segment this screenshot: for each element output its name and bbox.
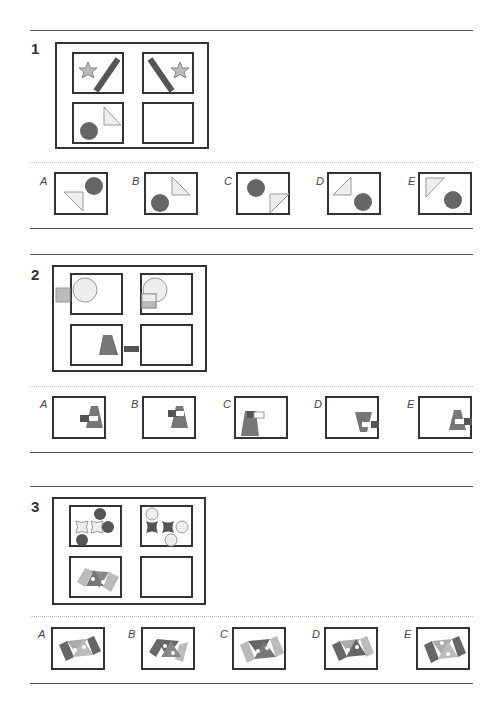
- option-a-figure: [54, 398, 108, 441]
- triangles-parallelograms-figure: [71, 558, 124, 600]
- q3-option-c-label: C: [220, 628, 228, 640]
- option-c-figure: [234, 629, 288, 672]
- option-c-figure: [236, 398, 290, 441]
- option-b-figure: [143, 629, 197, 672]
- q2-option-c-label: C: [223, 398, 231, 410]
- q3-option-e[interactable]: [416, 627, 470, 670]
- q2-option-e[interactable]: [418, 396, 472, 439]
- section-1-divider: [30, 162, 473, 163]
- square-inside-circle-figure: [142, 275, 195, 317]
- q1-option-d-label: D: [316, 175, 324, 187]
- q3-option-b-label: B: [128, 628, 135, 640]
- option-d-figure: [326, 629, 380, 672]
- q1-option-e-label: E: [408, 175, 415, 187]
- q2-cell-2: [140, 273, 193, 315]
- q2-cell-1: [70, 273, 123, 315]
- q3-option-d-label: D: [312, 628, 320, 640]
- q3-cell-4-blank: [140, 556, 193, 598]
- q1-option-b[interactable]: [144, 172, 198, 215]
- q2-option-b-label: B: [131, 398, 138, 410]
- option-e-figure: [420, 174, 474, 217]
- option-b-figure: [146, 174, 200, 217]
- option-d-figure: [327, 398, 381, 441]
- q3-cell-2: [140, 505, 193, 547]
- option-e-figure: [420, 398, 474, 441]
- option-b-figure: [144, 398, 198, 441]
- q1-option-e[interactable]: [418, 172, 472, 215]
- q2-option-d[interactable]: [325, 396, 379, 439]
- q1-cell-3: [72, 102, 124, 144]
- q1-option-a-label: A: [40, 175, 47, 187]
- q3-cell-3: [69, 556, 122, 598]
- crosses-circles-figure: [71, 507, 124, 549]
- option-a-figure: [53, 629, 107, 672]
- option-c-figure: [238, 174, 292, 217]
- dark-crosses-light-circles-figure: [142, 507, 195, 549]
- section-1-top-rule: [30, 30, 473, 31]
- star-slash-figure: [74, 54, 126, 96]
- option-e-figure: [418, 629, 472, 672]
- question-number-3: 3: [31, 498, 39, 515]
- q2-option-c[interactable]: [234, 396, 288, 439]
- q2-option-b[interactable]: [142, 396, 196, 439]
- question-number-2: 2: [31, 266, 39, 283]
- q2-option-e-label: E: [407, 398, 414, 410]
- q3-option-c[interactable]: [232, 627, 286, 670]
- q3-option-b[interactable]: [141, 627, 195, 670]
- section-1-bottom-rule: [30, 228, 473, 229]
- circle-triangle-figure: [74, 104, 126, 146]
- q1-option-c[interactable]: [236, 172, 290, 215]
- q1-cell-2: [142, 52, 194, 94]
- question-2-matrix: [52, 265, 207, 372]
- trapezoid-bar-figure: [72, 326, 125, 368]
- section-2-top-rule: [30, 254, 473, 255]
- question-number-1: 1: [31, 40, 39, 57]
- q3-option-a-label: A: [38, 628, 45, 640]
- q1-cell-4-blank: [142, 102, 194, 144]
- q2-cell-4-blank: [140, 324, 193, 366]
- q2-option-d-label: D: [314, 398, 322, 410]
- option-d-figure: [329, 174, 383, 217]
- question-1-matrix: [55, 42, 209, 149]
- q1-option-c-label: C: [224, 175, 232, 187]
- section-3-bottom-rule: [30, 683, 473, 684]
- q2-option-a[interactable]: [52, 396, 106, 439]
- q3-option-d[interactable]: [324, 627, 378, 670]
- section-2-divider: [30, 386, 473, 387]
- q1-cell-1: [72, 52, 124, 94]
- q3-option-a[interactable]: [51, 627, 105, 670]
- backslash-star-figure: [144, 54, 196, 96]
- q3-option-e-label: E: [404, 628, 411, 640]
- q1-option-d[interactable]: [327, 172, 381, 215]
- q1-option-a[interactable]: [54, 172, 108, 215]
- q1-option-b-label: B: [132, 175, 139, 187]
- q3-cell-1: [69, 505, 122, 547]
- section-3-top-rule: [30, 486, 473, 487]
- q2-option-a-label: A: [40, 398, 47, 410]
- option-a-figure: [56, 174, 110, 217]
- q2-cell-3: [70, 324, 123, 366]
- section-3-divider: [30, 616, 473, 617]
- section-2-bottom-rule: [30, 452, 473, 453]
- question-3-matrix: [52, 497, 206, 605]
- square-circle-figure: [72, 275, 125, 317]
